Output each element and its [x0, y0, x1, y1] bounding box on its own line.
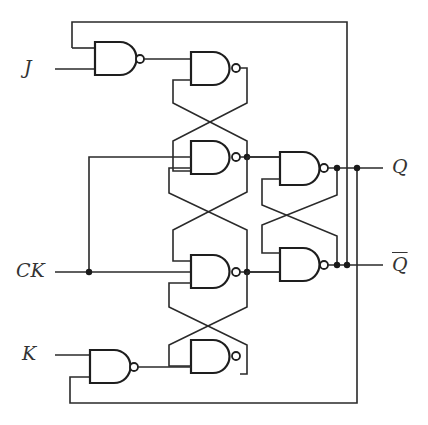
junction-dot [344, 262, 350, 268]
nand-gate-master-top [191, 52, 240, 85]
nand-gate-j [95, 42, 144, 75]
ck-junction-dot [86, 269, 92, 275]
label-k: K [22, 344, 36, 363]
nand-gate-master-bottom [191, 340, 240, 373]
junction-dot [334, 165, 340, 171]
label-q: Q [392, 157, 408, 176]
label-q-bar: Q [392, 255, 408, 274]
nand-gate-clock-bottom [191, 255, 240, 288]
nand-gate-slave-bottom [280, 248, 328, 281]
label-ck: CK [16, 261, 45, 280]
junction-dot [334, 262, 340, 268]
nand-gate-slave-top [280, 152, 328, 185]
jk-flip-flop-diagram: J CK K Q Q [0, 0, 428, 425]
nand-gate-clock-top [191, 141, 240, 174]
circuit-schematic [0, 0, 428, 425]
ck-wire-top [89, 157, 191, 272]
nand-gate-k [90, 350, 138, 383]
junction-dot [354, 165, 360, 171]
label-j: J [24, 58, 32, 77]
